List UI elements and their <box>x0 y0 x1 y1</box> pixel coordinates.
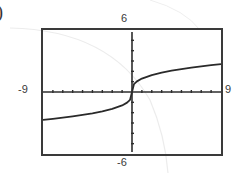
xmin-label: -9 <box>18 84 28 95</box>
ymax-label: 6 <box>121 13 127 24</box>
ymin-label: -6 <box>117 157 127 168</box>
figure-label-fragment: ) <box>0 2 3 23</box>
xmax-label: 9 <box>225 84 231 95</box>
plot-area <box>43 30 221 154</box>
graph-window <box>41 28 223 156</box>
